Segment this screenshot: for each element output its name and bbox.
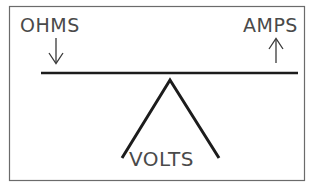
ohms-law-balance-diagram: OHMS AMPS VOLTS [0,0,316,189]
label-ohms: OHMS [20,14,80,36]
label-volts: VOLTS [129,147,194,171]
diagram-canvas: OHMS AMPS VOLTS [0,0,316,189]
label-amps: AMPS [243,14,298,36]
